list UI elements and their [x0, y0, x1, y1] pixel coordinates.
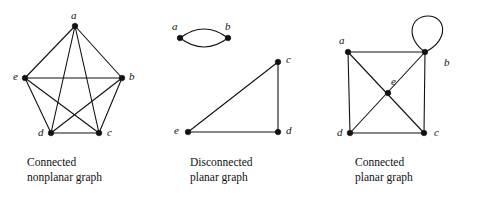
vertex-label-c: c [434, 127, 439, 138]
edge-b-c [424, 52, 425, 133]
vertex-b [225, 35, 231, 41]
panel-disconnected-planar-graph: a b c d e Disconnected planar graph [155, 0, 315, 200]
vertex-c [275, 59, 281, 65]
vertex-b [119, 75, 125, 81]
vertex-c [96, 130, 102, 136]
caption-line-2: planar graph [355, 170, 413, 185]
vertex-label-e: e [391, 76, 396, 87]
caption-line-1: Connected [355, 155, 413, 170]
edge-b-self-loop [412, 16, 443, 52]
vertex-label-e: e [174, 125, 179, 136]
caption-disconnected-planar-graph: Disconnected planar graph [190, 155, 253, 185]
vertex-a [177, 35, 183, 41]
vertex-label-e: e [13, 71, 18, 82]
vertex-group-nonplanar [22, 23, 125, 136]
vertex-group-disconnected [177, 35, 281, 135]
edge-a-c [75, 26, 99, 133]
edge-a-b-arc-up [180, 29, 228, 38]
caption-connected-planar-graph: Connected planar graph [355, 155, 413, 185]
caption-line-1: Connected [27, 155, 102, 170]
vertex-d [275, 129, 281, 135]
vertex-label-c: c [107, 127, 112, 138]
caption-connected-nonplanar-graph: Connected nonplanar graph [27, 155, 102, 185]
vertex-label-a: a [339, 35, 345, 46]
vertex-label-b: b [129, 71, 135, 82]
vertex-e [22, 75, 28, 81]
vertex-label-c: c [286, 54, 291, 65]
graph-figure: a b c d e Connected nonplanar graph [0, 0, 483, 200]
vertex-label-d: d [286, 125, 292, 136]
vertex-label-a: a [172, 21, 178, 32]
edge-a-b-arc-down [180, 38, 228, 47]
caption-line-1: Disconnected [190, 155, 253, 170]
edge-e-c [188, 62, 278, 132]
edge-d-e [25, 78, 51, 133]
vertex-d [347, 130, 353, 136]
vertex-d [48, 130, 54, 136]
vertex-label-d: d [38, 127, 44, 138]
vertex-e [385, 90, 391, 96]
edge-a-b [75, 26, 122, 78]
vertex-e [185, 129, 191, 135]
edge-group-disconnected [180, 29, 278, 132]
vertex-c [421, 130, 427, 136]
edge-a-e [25, 26, 75, 78]
vertex-label-b: b [444, 57, 450, 68]
caption-line-2: nonplanar graph [27, 170, 102, 185]
edge-d-a [348, 52, 350, 133]
vertex-a [72, 23, 78, 29]
panel-connected-nonplanar-graph: a b c d e Connected nonplanar graph [0, 0, 160, 200]
caption-line-2: planar graph [190, 170, 253, 185]
vertex-label-b: b [225, 21, 231, 32]
vertex-b [422, 49, 428, 55]
edge-group-nonplanar [25, 26, 122, 133]
vertex-a [345, 49, 351, 55]
vertex-label-a: a [71, 10, 77, 21]
panel-connected-planar-graph: a b c d e Connected planar graph [320, 0, 483, 200]
vertex-label-d: d [337, 127, 343, 138]
